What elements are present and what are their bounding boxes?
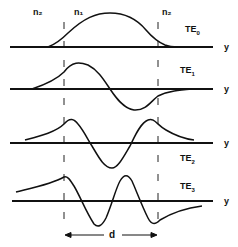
right-cladding-label: n₂ [162,7,172,17]
te3-y-label: y [224,196,229,206]
core-label: n₁ [74,7,83,17]
te2-y-label: y [224,138,229,148]
te0-label: TE0 [185,24,200,38]
te0-y-label: y [224,42,229,52]
te2-label: TE2 [180,153,195,167]
d-arrowhead-left [65,233,71,238]
te0-curve [48,13,178,47]
te1-curve [32,63,192,110]
left-cladding-label: n₂ [33,7,43,17]
te1-y-label: y [224,84,229,94]
mode-profile-diagram [0,0,238,247]
te1-label: TE1 [180,65,195,79]
te3-label: TE3 [180,181,195,195]
d-arrowhead-right [151,233,157,238]
core-width-label: d [109,230,115,240]
